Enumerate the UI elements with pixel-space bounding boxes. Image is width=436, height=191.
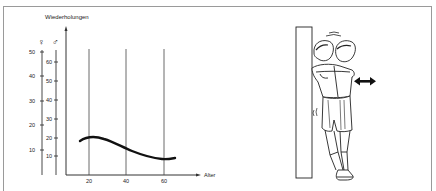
y-axis-title: Wiederholungen <box>45 14 89 20</box>
vertical-gridlines <box>89 49 164 175</box>
exercise-illustration <box>296 27 376 180</box>
x-axis-arrowhead <box>196 174 201 177</box>
exercise-figure: Wiederholungen ♀ ♂ 50 40 30 20 10 <box>0 0 436 191</box>
svg-text:50: 50 <box>29 49 35 55</box>
female-symbol: ♀ <box>38 37 45 47</box>
svg-text:40: 40 <box>29 73 35 79</box>
y-axis-arrowhead <box>65 26 68 31</box>
repetitions-curve <box>80 137 175 159</box>
svg-text:20: 20 <box>86 178 92 184</box>
x-axis-labels: 20 40 60 <box>86 178 167 184</box>
person-shorts <box>322 96 352 132</box>
double-arrow-icon <box>354 77 376 86</box>
person-shoe <box>336 170 353 180</box>
person-legs <box>325 130 350 170</box>
female-axis <box>40 50 44 175</box>
svg-text:10: 10 <box>29 147 35 153</box>
male-axis-labels: 60 50 40 30 20 10 <box>46 59 52 159</box>
svg-text:30: 30 <box>29 98 35 104</box>
motion-marks-head <box>326 32 341 36</box>
svg-text:20: 20 <box>46 135 52 141</box>
male-symbol: ♂ <box>52 37 59 47</box>
svg-text:30: 30 <box>46 116 52 122</box>
svg-text:60: 60 <box>161 178 167 184</box>
svg-text:40: 40 <box>123 178 129 184</box>
x-axis-title: Alter <box>204 172 215 178</box>
main-axes <box>66 29 198 175</box>
svg-text:40: 40 <box>46 97 52 103</box>
female-axis-labels: 50 40 30 20 10 <box>29 49 35 153</box>
line-chart: Wiederholungen ♀ ♂ 50 40 30 20 10 <box>29 14 215 184</box>
chart-and-illustration: Wiederholungen ♀ ♂ 50 40 30 20 10 <box>0 0 436 191</box>
svg-text:50: 50 <box>46 78 52 84</box>
person-torso <box>312 64 354 97</box>
wall <box>296 27 312 178</box>
motion-marks-hip <box>313 108 317 116</box>
svg-text:60: 60 <box>46 59 52 65</box>
svg-text:20: 20 <box>29 122 35 128</box>
person-front-head <box>336 41 356 62</box>
male-axis <box>54 50 58 175</box>
svg-text:10: 10 <box>46 153 52 159</box>
person-back-head <box>314 41 334 61</box>
